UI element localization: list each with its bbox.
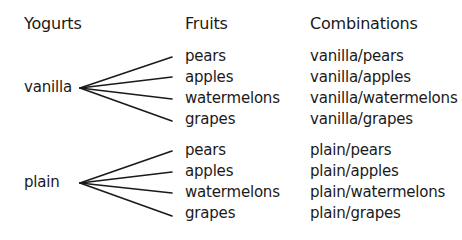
yogurt-vanilla: vanilla (24, 78, 72, 96)
header-fruits: Fruits (185, 15, 228, 33)
fruit-item: pears (185, 141, 226, 159)
combination-item: plain/apples (310, 162, 399, 180)
combination-item: vanilla/grapes (310, 110, 413, 128)
fruit-item: grapes (185, 110, 235, 128)
combination-item: vanilla/watermelons (310, 89, 458, 107)
fruit-item: watermelons (185, 183, 280, 201)
header-combinations: Combinations (310, 15, 418, 33)
header-yogurts: Yogurts (24, 15, 82, 33)
branch-vanilla-apples (80, 77, 172, 88)
yogurt-plain: plain (24, 173, 60, 191)
fruit-item: grapes (185, 204, 235, 222)
fruit-item: apples (185, 162, 233, 180)
combination-item: vanilla/apples (310, 68, 411, 86)
combination-item: plain/grapes (310, 204, 401, 222)
fruit-item: apples (185, 68, 233, 86)
branch-vanilla-pears (80, 57, 172, 88)
fruit-item: watermelons (185, 89, 280, 107)
combination-item: vanilla/pears (310, 47, 404, 65)
combination-item: plain/pears (310, 141, 391, 159)
combination-item: plain/watermelons (310, 183, 445, 201)
fruit-item: pears (185, 47, 226, 65)
